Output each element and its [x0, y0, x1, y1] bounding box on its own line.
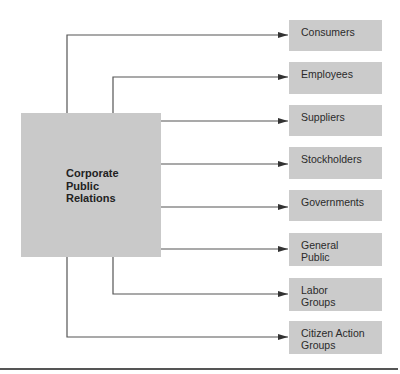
edge-employees [113, 77, 288, 113]
source-node-label: Corporate Public Relations [66, 167, 119, 205]
target-node-citizen-action-groups: Citizen Action Groups [289, 321, 382, 354]
diagram-canvas: Corporate Public Relations Consumers Emp… [0, 0, 400, 374]
edge-consumers [67, 35, 288, 113]
target-node-suppliers: Suppliers [289, 105, 382, 136]
edge-labor-groups [113, 257, 288, 294]
target-node-stockholders: Stockholders [289, 147, 382, 179]
target-node-labor-groups: Labor Groups [289, 278, 382, 311]
target-node-consumers: Consumers [289, 20, 382, 51]
target-node-governments: Governments [289, 190, 382, 221]
bottom-rule-divider [0, 368, 398, 370]
target-node-employees: Employees [289, 62, 382, 94]
edge-citizen-action-groups [67, 257, 288, 337]
target-node-general-public: General Public [289, 233, 382, 266]
source-node-corporate-public-relations: Corporate Public Relations [21, 113, 161, 257]
